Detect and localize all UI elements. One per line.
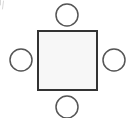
circle-right — [103, 49, 125, 71]
circle-left — [10, 49, 32, 71]
circle-bottom — [56, 96, 78, 118]
diagram-svg — [0, 0, 127, 118]
circle-top — [56, 4, 78, 26]
center-square — [38, 31, 97, 90]
diagram-canvas — [0, 0, 127, 118]
